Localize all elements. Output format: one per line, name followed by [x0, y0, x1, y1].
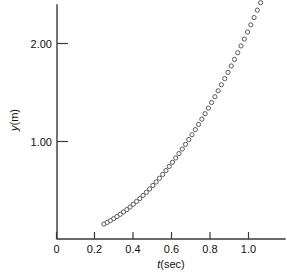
x-tick-label-0.4: 0.4: [125, 243, 140, 255]
data-point: [167, 164, 171, 168]
data-point: [196, 122, 200, 126]
data-point: [252, 15, 256, 19]
data-point: [200, 117, 204, 121]
data-point: [148, 187, 152, 191]
x-tick-label-0: 0: [53, 243, 59, 255]
data-point: [229, 64, 233, 68]
data-point: [203, 112, 207, 116]
data-point: [255, 8, 259, 12]
data-point: [249, 23, 253, 27]
data-point: [187, 137, 191, 141]
data-point: [226, 70, 230, 74]
data-point: [151, 183, 155, 187]
y-axis-title-unit: (m): [8, 109, 20, 126]
y-axis-title: y(m): [8, 109, 20, 132]
data-point: [259, 1, 263, 5]
data-point: [177, 151, 181, 155]
data-point: [232, 57, 236, 61]
data-point: [157, 176, 161, 180]
data-point: [193, 128, 197, 132]
y-tick-label-2: 2.00: [31, 38, 52, 50]
data-point: [180, 147, 184, 151]
chart-figure: 2.00 1.00 0 0.2 0.4 0.6 0.8 1.0 t(sec) y: [0, 0, 287, 272]
data-point: [239, 44, 243, 48]
data-point: [219, 83, 223, 87]
data-point: [223, 77, 227, 81]
data-point: [174, 156, 178, 160]
x-axis-title-unit: (sec): [160, 258, 184, 270]
data-point: [161, 172, 165, 176]
scatter-plot-canvas: 2.00 1.00 0 0.2 0.4 0.6 0.8 1.0 t(sec) y: [0, 0, 287, 272]
x-tick-label-1.0: 1.0: [241, 243, 256, 255]
data-point: [216, 89, 220, 93]
data-point: [242, 37, 246, 41]
data-point: [245, 30, 249, 34]
data-point: [164, 168, 168, 172]
data-point: [236, 51, 240, 55]
data-point: [183, 142, 187, 146]
x-tick-label-0.6: 0.6: [164, 243, 179, 255]
data-point: [210, 100, 214, 104]
data-point: [206, 106, 210, 110]
data-point: [190, 133, 194, 137]
data-point: [170, 160, 174, 164]
x-tick-label-0.8: 0.8: [202, 243, 217, 255]
data-point: [154, 180, 158, 184]
x-tick-label-0.2: 0.2: [87, 243, 102, 255]
data-point: [213, 95, 217, 99]
y-tick-label-1: 1.00: [31, 136, 52, 148]
x-axis-title: t(sec): [157, 258, 185, 270]
